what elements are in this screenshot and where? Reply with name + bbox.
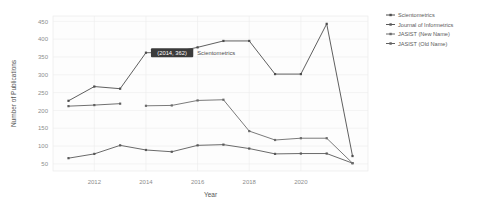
y-tick-label: 350 (38, 54, 49, 60)
series-marker (222, 40, 224, 42)
y-tick-label: 150 (38, 125, 49, 131)
x-axis-title: Year (204, 191, 218, 198)
annotation-series-label: Scientometrics (197, 50, 235, 56)
line-chart-figure: 50100150200250300350400450 2012201420162… (0, 0, 479, 207)
series-marker (171, 104, 173, 106)
x-tick-label: 2014 (139, 179, 153, 185)
annotation-tooltip-text: (2014, 362) (157, 50, 187, 56)
series-marker (67, 157, 69, 159)
series-marker (300, 137, 302, 139)
series-marker (171, 151, 173, 153)
y-tick-label: 450 (38, 19, 49, 25)
series-marker (119, 103, 121, 105)
series-marker (248, 130, 250, 132)
series-marker (274, 73, 276, 75)
y-tick-label: 100 (38, 143, 49, 149)
y-tick-label: 250 (38, 90, 49, 96)
legend-item-1[interactable]: Journal of Informetrics (386, 22, 454, 28)
series-marker (119, 88, 121, 90)
legend-item-label: Scientometrics (398, 12, 435, 18)
x-tick-label: 2018 (243, 179, 257, 185)
legend-swatch-marker (389, 42, 391, 44)
series-marker (351, 162, 353, 164)
y-axis-title: Number of Publications (10, 59, 17, 127)
y-tick-label: 300 (38, 72, 49, 78)
series-marker (222, 144, 224, 146)
series-marker (67, 105, 69, 107)
legend-item-label: JASIST (New Name) (398, 31, 450, 37)
series-marker (196, 144, 198, 146)
series-marker (145, 149, 147, 151)
legend-item-3[interactable]: JASIST (Old Name) (386, 41, 447, 47)
series-marker (326, 152, 328, 154)
series-marker (248, 147, 250, 149)
y-tick-label: 50 (41, 161, 48, 167)
x-tick-label: 2016 (191, 179, 205, 185)
series-marker (93, 85, 95, 87)
series-marker (67, 100, 69, 102)
legend-swatch-marker (389, 33, 391, 35)
y-axis-ticks: 50100150200250300350400450 (38, 19, 49, 168)
series-marker (300, 73, 302, 75)
series-marker (145, 52, 147, 54)
series-marker (222, 99, 224, 101)
series-marker (119, 144, 121, 146)
legend-item-label: Journal of Informetrics (398, 22, 454, 28)
series-marker (326, 23, 328, 25)
series-marker (300, 152, 302, 154)
x-axis-ticks: 20122014201620182020 (88, 179, 309, 185)
series-marker (326, 137, 328, 139)
series-marker (196, 99, 198, 101)
series-marker (93, 153, 95, 155)
legend-item-label: JASIST (Old Name) (398, 41, 447, 47)
y-tick-label: 200 (38, 108, 49, 114)
legend-swatch-marker (389, 14, 391, 16)
series-marker (93, 104, 95, 106)
series-marker (248, 40, 250, 42)
chart-legend: ScientometricsJournal of InformetricsJAS… (386, 12, 454, 47)
y-tick-label: 400 (38, 36, 49, 42)
legend-item-0[interactable]: Scientometrics (386, 12, 435, 18)
x-tick-label: 2020 (294, 179, 308, 185)
series-marker (274, 139, 276, 141)
x-tick-label: 2012 (88, 179, 102, 185)
series-marker (196, 46, 198, 48)
series-marker (274, 153, 276, 155)
series-marker (145, 105, 147, 107)
series-marker (351, 155, 353, 157)
chart-canvas: 50100150200250300350400450 2012201420162… (0, 0, 479, 207)
legend-item-2[interactable]: JASIST (New Name) (386, 31, 450, 37)
legend-swatch-marker (389, 23, 391, 25)
